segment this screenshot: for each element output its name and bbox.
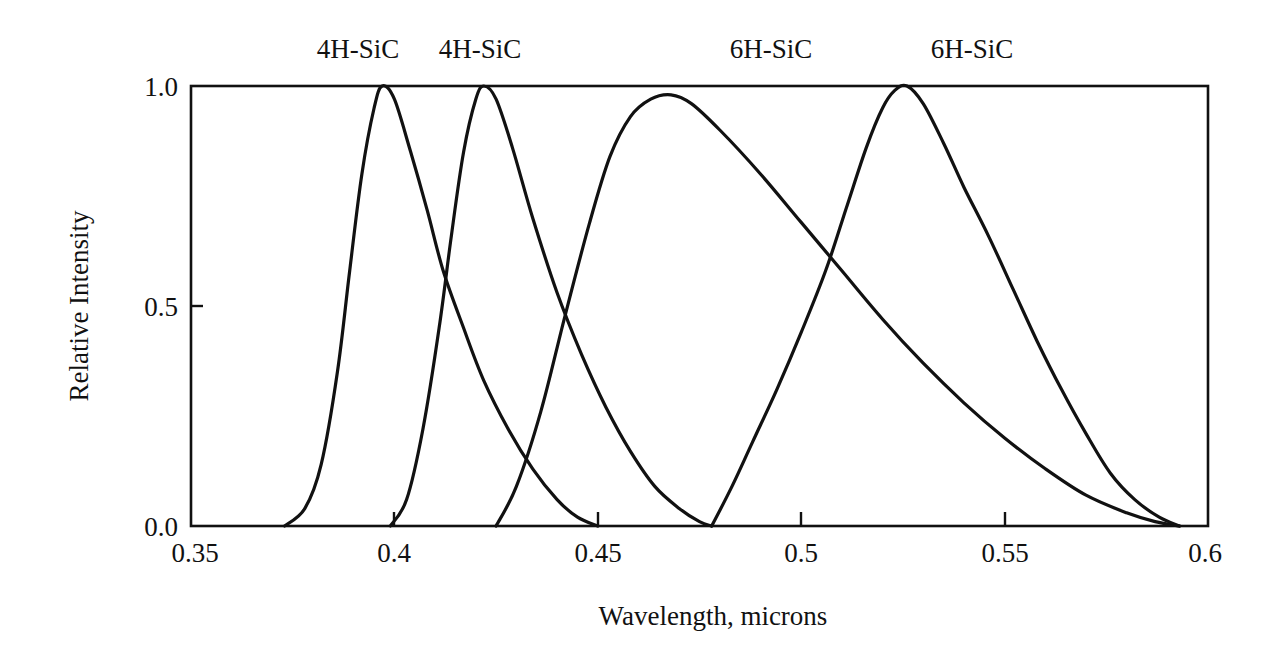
curve-6h-sic-1 — [496, 95, 1179, 526]
x-axis-title: Wavelength, microns — [599, 601, 828, 631]
series-label-4h-sic-1: 4H-SiC — [317, 34, 400, 64]
spectrum-chart: 4H-SiC 4H-SiC 6H-SiC 6H-SiC 1.0 0.5 0.0 … — [0, 0, 1279, 665]
plot-frame — [191, 86, 1208, 526]
y-tick-label-0.5: 0.5 — [144, 292, 178, 322]
x-tick-label-0.4: 0.4 — [377, 538, 411, 568]
curve-6h-sic-2 — [712, 85, 1180, 526]
x-tick-label-0.6: 0.6 — [1188, 538, 1222, 568]
y-axis-title: Relative Intensity — [64, 210, 94, 402]
x-tick-label-0.45: 0.45 — [574, 538, 621, 568]
x-tick-label-0.55: 0.55 — [981, 538, 1028, 568]
series-label-6h-sic-1: 6H-SiC — [730, 34, 813, 64]
curve-4h-sic-2 — [390, 86, 711, 526]
series-label-6h-sic-2: 6H-SiC — [931, 34, 1014, 64]
y-tick-label-1.0: 1.0 — [144, 72, 178, 102]
series-label-4h-sic-2: 4H-SiC — [439, 34, 522, 64]
x-tick-label-0.5: 0.5 — [784, 538, 818, 568]
x-tick-label-0.35: 0.35 — [171, 538, 218, 568]
x-ticks — [394, 512, 1005, 526]
curves-group — [285, 85, 1180, 526]
